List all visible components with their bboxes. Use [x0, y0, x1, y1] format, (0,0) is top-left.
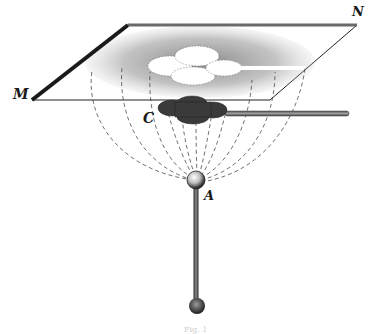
- charged-sphere-a: [187, 171, 205, 314]
- label-a: A: [202, 188, 214, 203]
- conductor-handle: [225, 111, 349, 116]
- bottom-ball: [189, 298, 205, 314]
- label-c: C: [143, 110, 154, 126]
- label-m: M: [12, 86, 29, 102]
- insulating-rod: [194, 185, 199, 300]
- diagram-figure: M N C A Fig. 1: [0, 0, 375, 334]
- figure-caption: Fig. 1: [184, 325, 207, 334]
- glass-plate: [32, 25, 357, 100]
- label-n: N: [351, 4, 365, 19]
